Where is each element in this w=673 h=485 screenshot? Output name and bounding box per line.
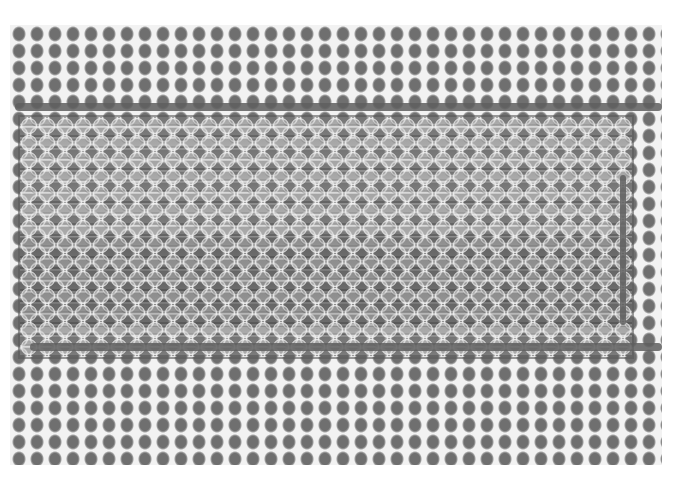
- mesh-overlay: [20, 117, 632, 357]
- woven-strip: [18, 115, 634, 359]
- micrograph-image: [10, 25, 662, 465]
- right-fiber: [620, 175, 626, 325]
- top-fiber: [15, 103, 662, 111]
- bottom-fiber: [30, 343, 662, 351]
